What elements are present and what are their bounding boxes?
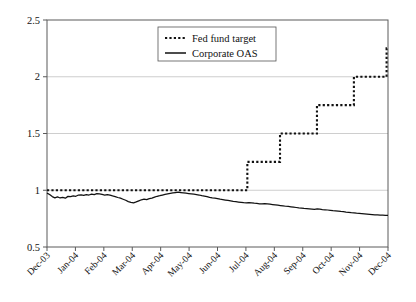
x-tick-label: Mar-04 <box>110 250 137 277</box>
x-tick-label: Feb-04 <box>83 250 109 276</box>
chart-container: 0.511.522.5 Dec-03Jan-04Feb-04Mar-04Apr-… <box>0 0 416 302</box>
x-tick-label: Jan-04 <box>55 250 80 275</box>
x-tick-label: Apr-04 <box>139 250 166 277</box>
x-tick-label: Aug-04 <box>252 250 280 278</box>
legend-label: Corporate OAS <box>192 48 258 59</box>
y-tick-label: 1.5 <box>27 128 40 139</box>
y-tick-label: 1 <box>35 185 40 196</box>
x-axis <box>47 247 388 251</box>
x-tick-labels: Dec-03Jan-04Feb-04Mar-04Apr-04May-04Jun-… <box>25 250 393 279</box>
y-tick-label: 2 <box>35 71 40 82</box>
x-tick-label: Oct-04 <box>310 250 336 276</box>
x-tick-label: Nov-04 <box>337 250 365 278</box>
y-tick-label: 0.5 <box>27 242 40 253</box>
grid-lines <box>47 77 388 191</box>
y-tick-label: 2.5 <box>27 15 40 26</box>
fed-fund-step-line <box>47 48 388 190</box>
series-fed-fund-target <box>47 48 388 190</box>
x-tick-label: Sep-04 <box>282 250 308 276</box>
chart-legend: Fed fund targetCorporate OAS <box>158 27 276 61</box>
line-chart: 0.511.522.5 Dec-03Jan-04Feb-04Mar-04Apr-… <box>0 0 416 302</box>
x-tick-label: May-04 <box>166 250 195 279</box>
legend-label: Fed fund target <box>192 33 256 44</box>
corporate-oas-line <box>47 192 388 215</box>
series-corporate-oas <box>47 192 388 215</box>
y-axis <box>43 20 47 247</box>
y-tick-labels: 0.511.522.5 <box>27 15 40 253</box>
x-tick-label: Jul-04 <box>227 250 251 274</box>
x-tick-label: Dec-04 <box>366 250 393 277</box>
x-tick-label: Dec-03 <box>25 250 52 277</box>
x-tick-label: Jun-04 <box>197 250 223 276</box>
